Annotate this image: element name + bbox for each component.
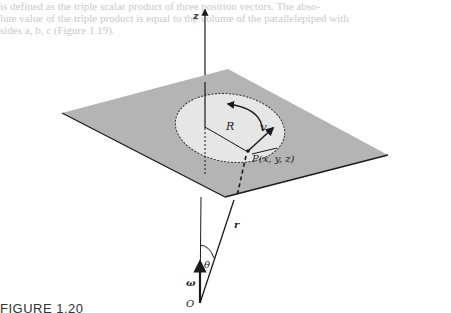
position-vector [200, 200, 234, 303]
rotation-diagram: R v P(x, y, z) r ω θ O z [0, 0, 451, 313]
radius-label: R [225, 120, 234, 133]
figure-caption: FIGURE 1.20 [0, 301, 84, 313]
angle-label: θ [204, 259, 210, 270]
origin-label: O [186, 298, 194, 309]
position-vector-label: r [234, 219, 240, 230]
velocity-label: v [260, 121, 267, 134]
point-p [246, 149, 250, 153]
z-axis-label: z [192, 10, 199, 21]
angle-arc [200, 245, 214, 258]
point-label: P(x, y, z) [251, 153, 295, 164]
angular-velocity-label: ω [186, 277, 196, 288]
